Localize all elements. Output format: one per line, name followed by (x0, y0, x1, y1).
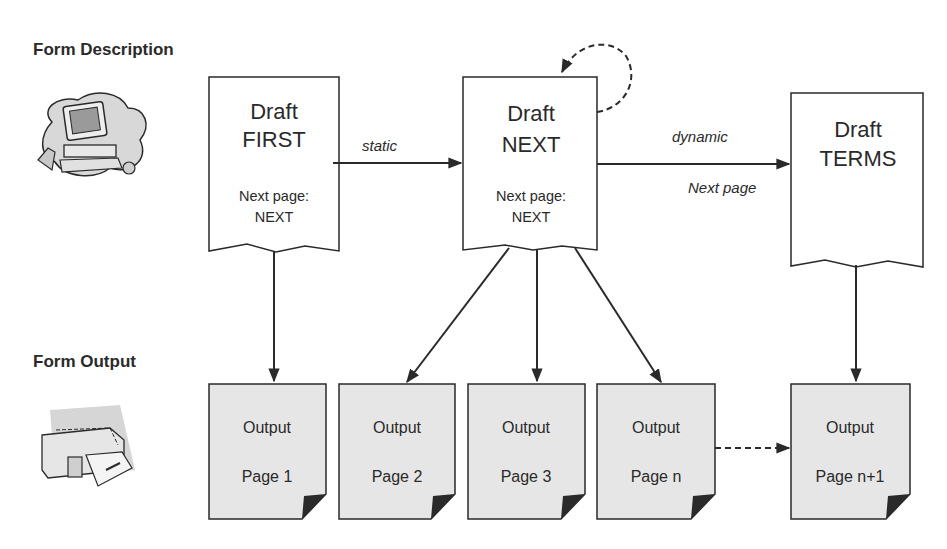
form-output-title: Form Output (33, 352, 136, 371)
output-page-3: Output Page 3 (468, 384, 585, 519)
edge-next-to-pagen (575, 248, 661, 382)
edge-next-to-page2 (407, 248, 509, 382)
output-page-n-plus-1-line2: Page n+1 (816, 468, 885, 485)
draft-next-node: Draft NEXT Next page: NEXT (463, 77, 597, 250)
edge-dynamic: dynamic Next page (597, 128, 789, 196)
output-page-n-plus-1-line1: Output (826, 419, 875, 436)
output-page-3-line2: Page 3 (501, 468, 552, 485)
draft-first-title-line2: FIRST (242, 127, 306, 152)
draft-terms-title-line1: Draft (834, 117, 882, 142)
edge-dynamic-label: dynamic (672, 128, 728, 145)
output-page-1-line1: Output (243, 419, 292, 436)
output-page-2: Output Page 2 (339, 384, 455, 519)
draft-next-next-label: Next page: (496, 188, 566, 204)
edge-next-page-label: Next page (688, 179, 756, 196)
draft-first-next-value: NEXT (255, 209, 294, 225)
draft-next-next-value: NEXT (512, 209, 551, 225)
draft-terms-title-line2: TERMS (820, 146, 897, 171)
draft-next-title-line1: Draft (507, 101, 555, 126)
edge-static: static (333, 137, 461, 163)
output-page-n-line2: Page n (631, 468, 682, 485)
output-page-1: Output Page 1 (209, 384, 326, 519)
draft-first-next-label: Next page: (239, 188, 309, 204)
edge-static-label: static (362, 137, 398, 154)
output-page-n-line1: Output (632, 419, 681, 436)
output-page-n: Output Page n (597, 384, 715, 519)
draft-next-title-line2: NEXT (502, 132, 561, 157)
form-description-title: Form Description (33, 40, 174, 59)
draft-terms-node: Draft TERMS (791, 93, 923, 267)
output-page-1-line2: Page 1 (242, 468, 293, 485)
output-page-3-line1: Output (502, 419, 551, 436)
draft-first-node: Draft FIRST Next page: NEXT (209, 77, 339, 252)
output-page-n-plus-1: Output Page n+1 (791, 384, 910, 519)
computer-icon (38, 93, 146, 176)
output-page-2-line1: Output (373, 419, 422, 436)
output-page-2-line2: Page 2 (372, 468, 423, 485)
printer-icon (42, 405, 135, 486)
draft-first-title-line1: Draft (250, 99, 298, 124)
